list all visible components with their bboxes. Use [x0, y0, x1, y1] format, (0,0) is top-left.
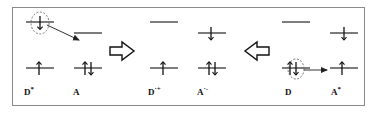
species-label-d-cation: D·+ — [148, 88, 161, 97]
species-label-d-cation-sup: ·+ — [155, 85, 161, 93]
electron-transfer-figure: D* A D·+ A·- D A* — [0, 0, 377, 118]
species-label-a-anion-sup: ·- — [204, 85, 209, 93]
species-a-star — [330, 27, 358, 75]
species-label-a: A — [73, 88, 80, 97]
species-label-a-anion: A·- — [197, 88, 208, 97]
species-d-star — [26, 12, 54, 75]
species-label-a-star: A* — [331, 88, 341, 97]
species-a-anion — [198, 27, 226, 75]
electron-up-d-star-lumo — [37, 16, 42, 29]
species-label-d-ground: D — [285, 88, 292, 97]
species-label-a-star-sup: * — [338, 85, 342, 93]
species-label-a-text: A — [73, 87, 80, 97]
species-label-d-star-sup: * — [31, 85, 35, 93]
reverse-block-arrow — [245, 42, 269, 60]
diagram-canvas — [0, 0, 377, 118]
species-d-cation — [150, 22, 178, 75]
forward-block-arrow — [110, 42, 134, 60]
species-label-d-ground-text: D — [285, 87, 292, 97]
species-label-d-star: D* — [24, 88, 34, 97]
